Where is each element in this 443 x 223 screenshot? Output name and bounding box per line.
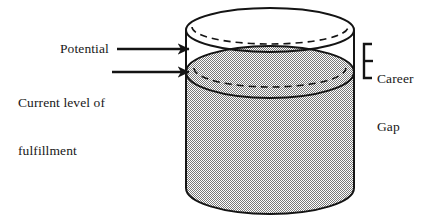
fill-level-surface [186, 46, 354, 98]
cylinder-top-rim [186, 8, 354, 52]
cylinder-shape [185, 8, 355, 220]
label-current-level-line2: fulfillment [18, 143, 105, 159]
label-career-gap-line2: Gap [377, 119, 414, 135]
label-potential: Potential [60, 41, 109, 57]
label-career-gap-line1: Career [377, 71, 414, 87]
diagram-canvas: Potential Current level of fulfillment C… [0, 0, 443, 223]
label-current-level-line1: Current level of [18, 95, 105, 111]
label-current-level: Current level of fulfillment [18, 63, 105, 191]
label-career-gap: Career Gap [377, 39, 414, 167]
annotation-arrows [112, 49, 189, 72]
career-gap-bracket [364, 44, 373, 78]
